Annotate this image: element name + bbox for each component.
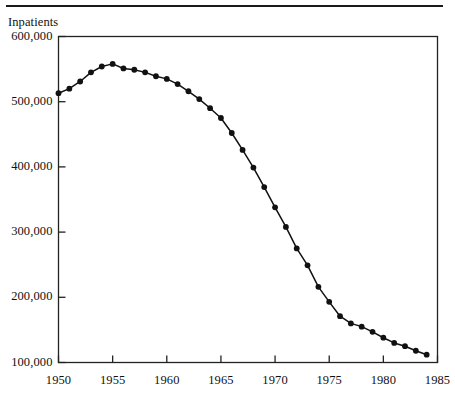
series-marker: 1980: 138,000 [380,335,386,341]
series-marker: 1960: 535,000 [164,76,170,82]
x-tick-label: 1950 [29,374,89,387]
plot-border [59,37,438,363]
data-series-inpatients: 1950: 513,0001951: 520,0001952: 531,0001… [56,61,430,358]
series-marker: 1954: 554,000 [99,64,105,70]
y-tick-label: 100,000 [0,356,53,369]
series-marker: 1974: 216,000 [315,284,321,290]
series-marker: 1971: 308,000 [283,224,289,230]
x-tick-label: 1955 [83,374,143,387]
series-marker: 1966: 452,000 [229,130,235,136]
x-tick-label: 1960 [137,374,197,387]
series-marker: 1958: 545,000 [142,69,148,75]
series-marker: 1982: 125,000 [402,343,408,349]
series-marker: 1967: 426,000 [240,147,246,153]
series-marker: 1969: 369,000 [261,184,267,190]
series-marker: 1953: 545,000 [88,69,94,75]
series-line [59,64,427,355]
x-tick-label: 1975 [299,374,359,387]
y-tick-label: 400,000 [0,160,53,173]
series-marker: 1972: 275,000 [294,246,300,252]
x-tick-label: 1985 [408,374,455,387]
series-marker: 1983: 118,000 [413,348,419,354]
series-marker: 1959: 539,000 [153,73,159,79]
y-tick-label: 600,000 [0,30,53,43]
series-marker: 1964: 490,000 [207,105,213,111]
series-marker: 1979: 147,000 [370,329,376,335]
series-marker: 1952: 531,000 [77,79,83,85]
plot-frame [59,37,438,363]
series-marker: 1955: 558,000 [110,61,116,67]
series-marker: 1956: 551,000 [121,66,127,72]
series-marker: 1976: 171,000 [337,313,343,319]
series-marker: 1977: 160,000 [348,320,354,326]
series-marker: 1973: 249,000 [305,262,311,268]
axis-ticks [59,37,438,363]
series-marker: 1963: 504,000 [196,96,202,102]
series-marker: 1950: 513,000 [56,90,62,96]
series-marker: 1962: 516,000 [186,88,192,94]
series-marker: 1951: 520,000 [66,86,72,92]
x-tick-label: 1970 [245,374,305,387]
series-marker: 1961: 527,000 [175,81,181,87]
series-marker: 1975: 193,000 [326,299,332,305]
series-marker: 1984: 112,000 [424,352,430,358]
series-marker: 1970: 338,000 [272,204,278,210]
series-marker: 1978: 155,000 [359,324,365,330]
series-marker: 1965: 475,000 [218,115,224,121]
x-tick-label: 1965 [191,374,251,387]
x-tick-label: 1980 [353,374,413,387]
y-tick-label: 200,000 [0,290,53,303]
series-marker: 1981: 130,000 [391,340,397,346]
y-tick-label: 500,000 [0,95,53,108]
series-marker: 1957: 549,000 [131,67,137,73]
series-marker: 1968: 399,000 [251,165,257,171]
y-tick-label: 300,000 [0,225,53,238]
